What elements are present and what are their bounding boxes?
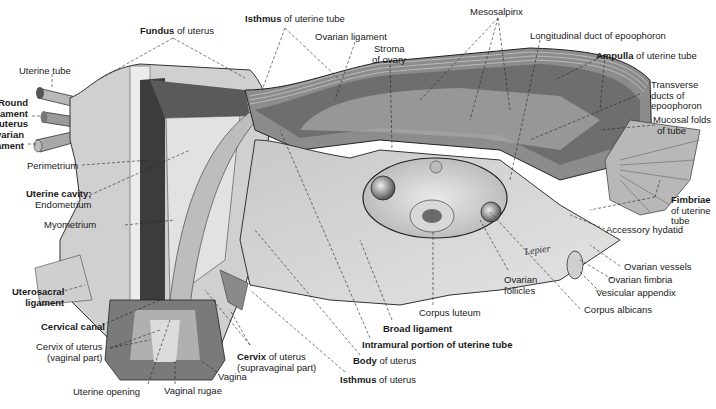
label-vagina: Vagina	[218, 372, 247, 383]
label-uterosacral: Uterosacralligament	[12, 287, 64, 308]
label-ovarian-vessels: Ovarian vessels	[624, 262, 692, 273]
label-vesicular-appendix: Vesicular appendix	[596, 288, 676, 299]
label-ampulla: Ampulla of uterine tube	[596, 51, 697, 62]
label-body: Body of uterus	[353, 356, 416, 367]
label-fundus: Fundus of uterus	[140, 26, 214, 37]
label-mucosal-folds: Mucosal foldsof tube	[653, 115, 711, 136]
label-transverse-ducts: Transverseducts ofepoophoron	[651, 80, 702, 112]
label-cervix-vaginal: Cervix of uterus(vaginal part)	[36, 342, 103, 363]
label-myometrium: Myometrium	[44, 220, 96, 231]
label-accessory-hydatid: Accessory hydatid	[606, 225, 683, 236]
label-vaginal-rugae: Vaginal rugae	[164, 386, 222, 397]
label-ovarian-fimbria: Ovarian fimbria	[608, 275, 672, 286]
label-corpus-albicans: Corpus albicans	[584, 305, 652, 316]
label-uterine-opening: Uterine opening	[73, 387, 140, 398]
label-stroma: Stromaof ovary	[372, 44, 406, 65]
label-broad-ligament: Broad ligament	[383, 324, 452, 335]
label-mesosalpinx: Mesosalpinx	[470, 7, 523, 18]
ovarian-follicle	[481, 202, 501, 222]
label-round-ligament: Roundligamentof uterus	[0, 98, 28, 130]
label-longitudinal-duct: Longitudinal duct of epoophoron	[530, 31, 666, 42]
label-fimbriae: Fimbriaeof uterinetube	[671, 195, 711, 227]
label-perimetrium: Perimetrium	[27, 161, 78, 172]
label-cervix-supravaginal: Cervix of uterus(supravaginal part)	[237, 352, 316, 373]
label-intramural: Intramural portion of uterine tube	[362, 340, 512, 351]
label-cervical-canal: Cervical canal	[41, 322, 105, 333]
label-isthmus-uterus: Isthmus of uterus	[340, 375, 416, 386]
myometrium-band	[140, 78, 165, 330]
label-ovarian-ligament-left: Ovarianligament	[0, 130, 24, 151]
ovarian-follicle	[371, 176, 395, 200]
label-ovarian-ligament-top: Ovarian ligament	[315, 32, 387, 43]
label-uterine-tube: Uterine tube	[19, 66, 71, 77]
label-uterine-cavity: Uterine cavity;Endometrium	[26, 189, 91, 210]
label-ovarian-follicles: Ovarianfollicles	[504, 275, 537, 296]
label-isthmus-tube: Isthmus of uterine tube	[245, 14, 345, 25]
vesicular-appendix	[567, 251, 583, 279]
label-corpus-luteum: Corpus luteum	[419, 308, 481, 319]
